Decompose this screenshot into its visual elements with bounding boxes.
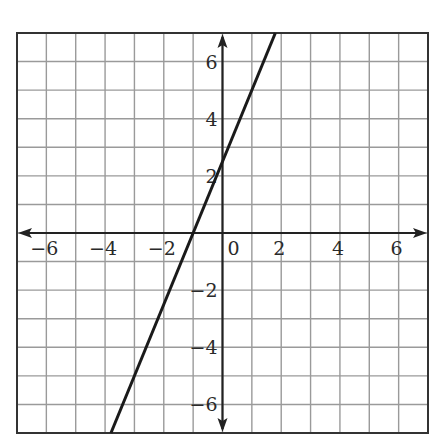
y-tick-label: 6 (205, 51, 217, 73)
y-tick-label: −4 (189, 336, 217, 358)
x-tick-label: 2 (273, 237, 285, 259)
x-tick-label: 6 (391, 237, 403, 259)
x-tick-label: −6 (30, 237, 58, 259)
x-tick-label: −4 (89, 237, 117, 259)
x-tick-label: 4 (332, 237, 344, 259)
y-tick-label: 4 (205, 108, 217, 130)
axes (18, 34, 427, 432)
x-tick-label: −2 (148, 237, 176, 259)
x-tick-label: 0 (227, 237, 239, 259)
y-tick-label: −6 (189, 393, 217, 415)
y-tick-label: −2 (189, 279, 217, 301)
coordinate-plane: −6−4−20246642−2−4−6 (0, 0, 434, 439)
